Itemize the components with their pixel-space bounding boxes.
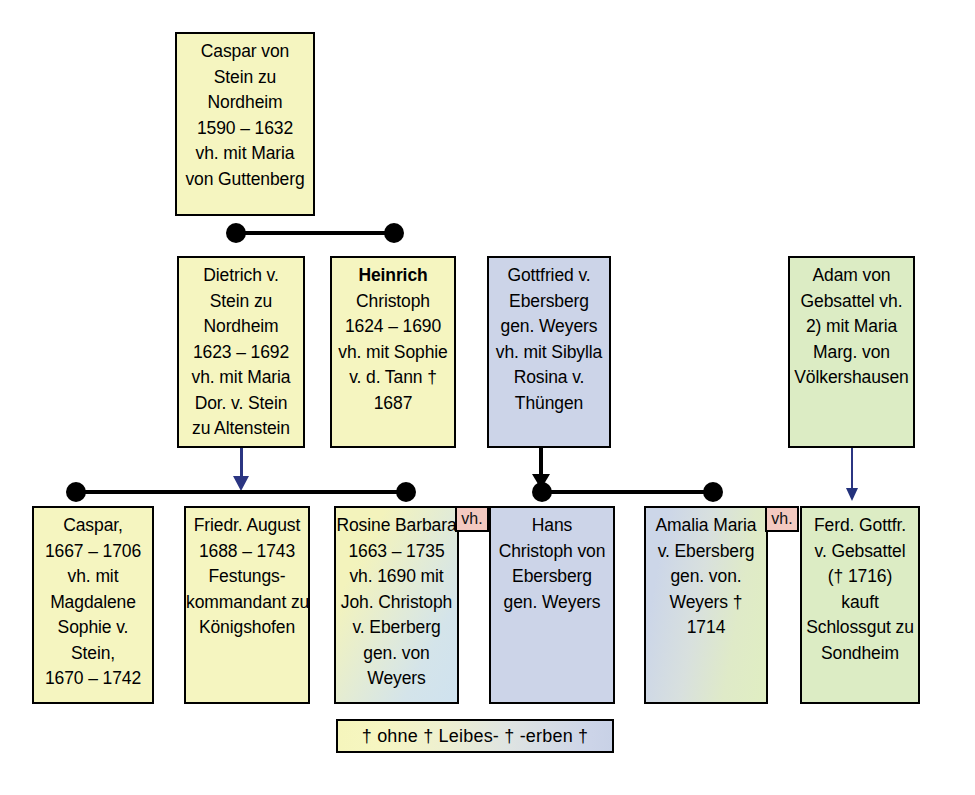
node-line: Rosine Barbara [336, 513, 457, 539]
node-gottfried-von-ebersberg[interactable]: Gottfried v. Ebersberg gen. Weyers vh. m… [487, 256, 611, 448]
node-line: Hans [491, 513, 613, 539]
node-line: Ferd. Gottfr. [802, 513, 918, 539]
node-line: Joh. Christoph [336, 590, 457, 616]
node-line: Nordheim [179, 314, 303, 340]
node-line: vh. mit Maria [177, 141, 313, 167]
connector-bar-row2-middle [546, 490, 714, 494]
node-caspar-von-stein[interactable]: Caspar von Stein zu Nordheim 1590 – 1632… [175, 32, 315, 216]
node-line: Adam von [790, 263, 913, 289]
node-adam-von-gebsattel[interactable]: Adam von Gebsattel vh. 2) mit Maria Marg… [788, 256, 915, 448]
node-line: v. Gebsattel [802, 539, 918, 565]
connector-dot-right-row2-middle [703, 482, 723, 502]
node-ferd-gottfr[interactable]: Ferd. Gottfr. v. Gebsattel († 1716) kauf… [800, 506, 920, 704]
node-line: Thüngen [489, 391, 609, 417]
arrow-head-dietrich [233, 476, 249, 491]
node-line: Gebsattel vh. [790, 289, 913, 315]
connector-dot-right-row2-left [396, 482, 416, 502]
node-line: Magdalene [34, 590, 152, 616]
node-hans-christoph[interactable]: Hans Christoph von Ebersberg gen. Weyers [489, 506, 615, 704]
node-line-clipped: 1670 – 1742 [34, 666, 152, 692]
node-line: Königshofen [186, 615, 308, 641]
node-line: 2) mit Maria [790, 314, 913, 340]
node-line: Amalia Maria [646, 513, 766, 539]
node-line: vh. mit Maria [179, 365, 303, 391]
node-line: gen. von [336, 641, 457, 667]
arrow-head-gebsattel [846, 488, 858, 501]
arrow-stem-gebsattel [851, 448, 853, 492]
node-line: Sophie v. [34, 615, 152, 641]
node-line: Stein, [34, 641, 152, 667]
node-line: Friedr. August [186, 513, 308, 539]
connector-dot-right-row1 [384, 223, 404, 243]
node-line: Christoph [332, 289, 454, 315]
node-line: Dor. v. Stein [179, 391, 303, 417]
marriage-tab-amalia-maria[interactable]: vh. [765, 506, 799, 532]
node-line: kommandant zu [186, 590, 308, 616]
node-line: Dietrich v. [179, 263, 303, 289]
node-line: v. Ebersberg [646, 539, 766, 565]
node-line: Völkershausen [790, 365, 913, 391]
connector-dot-left-row1 [226, 223, 246, 243]
node-line: vh. mit Sophie [332, 340, 454, 366]
node-line: Gottfried v. [489, 263, 609, 289]
node-line: Stein zu [179, 289, 303, 315]
node-line: 1624 – 1690 [332, 314, 454, 340]
node-rosine-barbara[interactable]: Rosine Barbara 1663 – 1735 vh. 1690 mit … [334, 506, 459, 704]
node-line: Marg. von [790, 340, 913, 366]
node-line: v. Eberberg [336, 615, 457, 641]
marriage-tab-label: vh. [461, 511, 482, 527]
node-line: Rosina v. [489, 365, 609, 391]
node-line: 1623 – 1692 [179, 340, 303, 366]
node-line: Heinrich [332, 263, 454, 289]
legend-box: † ohne † Leibes- † -erben † [336, 719, 614, 753]
node-line: vh. mit [34, 564, 152, 590]
node-line: Caspar, [34, 513, 152, 539]
node-line: Christoph von [491, 539, 613, 565]
node-line: 1714 [646, 615, 766, 641]
node-friedr-august[interactable]: Friedr. August 1688 – 1743 Festungs- kom… [184, 506, 310, 704]
legend-label: † ohne † Leibes- † -erben † [362, 726, 589, 746]
connector-bar-row2-left [82, 490, 407, 494]
node-line: vh. mit Sibylla [489, 340, 609, 366]
node-dietrich-von-stein[interactable]: Dietrich v. Stein zu Nordheim 1623 – 169… [177, 256, 305, 448]
node-line: Stein zu [177, 65, 313, 91]
connector-bar-row1 [236, 231, 394, 235]
marriage-tab-label: vh. [771, 511, 792, 527]
node-line: Nordheim [177, 90, 313, 116]
connector-dot-left-row2-left [66, 482, 86, 502]
node-heinrich-christoph[interactable]: Heinrich Christoph 1624 – 1690 vh. mit S… [330, 256, 456, 448]
node-line: Weyers [336, 666, 457, 692]
connector-dot-left-row2-middle [532, 482, 552, 502]
node-line: gen. Weyers [491, 590, 613, 616]
node-line: 1590 – 1632 [177, 116, 313, 142]
node-line: Ebersberg [489, 289, 609, 315]
node-line: gen. von. [646, 564, 766, 590]
node-line: Weyers † [646, 590, 766, 616]
node-caspar-1667[interactable]: Caspar, 1667 – 1706 vh. mit Magdalene So… [32, 506, 154, 704]
node-line: Sondheim [802, 641, 918, 667]
node-line: Schlossgut zu [802, 615, 918, 641]
node-line: Festungs- [186, 564, 308, 590]
node-line: Caspar von [177, 39, 313, 65]
node-line: 1663 – 1735 [336, 539, 457, 565]
node-line: gen. Weyers [489, 314, 609, 340]
node-line: 1667 – 1706 [34, 539, 152, 565]
genealogy-diagram: Caspar von Stein zu Nordheim 1590 – 1632… [0, 0, 975, 795]
node-line: v. d. Tann † [332, 365, 454, 391]
node-amalia-maria[interactable]: Amalia Maria v. Ebersberg gen. von. Weye… [644, 506, 768, 704]
arrow-stem-dietrich [240, 448, 243, 479]
node-line: kauft [802, 590, 918, 616]
node-line: 1687 [332, 391, 454, 417]
node-line: Ebersberg [491, 564, 613, 590]
node-line: von Guttenberg [177, 167, 313, 193]
node-line: 1688 – 1743 [186, 539, 308, 565]
marriage-tab-rosine-barbara[interactable]: vh. [455, 506, 489, 532]
node-line: († 1716) [802, 564, 918, 590]
node-line: vh. 1690 mit [336, 564, 457, 590]
node-line-clipped: zu Altenstein [179, 416, 303, 442]
